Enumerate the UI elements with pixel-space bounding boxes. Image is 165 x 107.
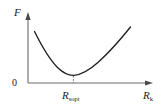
- x-axis-label-base: R: [143, 89, 150, 101]
- x-axis-label: Rk: [143, 90, 153, 101]
- minimum-annotation-base: R: [62, 89, 69, 101]
- convex-cost-curve: [35, 27, 131, 75]
- y-axis-arrow-icon: [25, 12, 30, 20]
- figure-container: F 0 Rsopt Rk: [0, 0, 165, 107]
- minimum-annotation-label: Rsopt: [62, 90, 80, 101]
- x-axis-arrow-icon: [145, 80, 153, 85]
- plot-area: [0, 0, 165, 107]
- minimum-annotation-subscript: sopt: [69, 95, 80, 102]
- x-axis-label-subscript: k: [150, 95, 153, 102]
- y-axis-label: F: [14, 7, 21, 18]
- origin-label: 0: [12, 78, 17, 88]
